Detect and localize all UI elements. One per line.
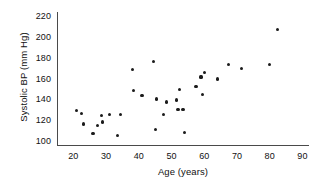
- x-tick-label: 50: [160, 152, 184, 161]
- data-point: [152, 60, 155, 63]
- data-point: [131, 68, 134, 71]
- data-point: [155, 97, 158, 100]
- data-point: [227, 63, 230, 66]
- data-point: [175, 98, 178, 101]
- y-tick-label: 180: [27, 54, 51, 63]
- data-point: [108, 113, 111, 116]
- x-tick-label: 90: [290, 152, 314, 161]
- data-point: [82, 122, 85, 125]
- y-tick-label: 140: [27, 95, 51, 104]
- x-tick-label: 70: [225, 152, 249, 161]
- data-point: [154, 128, 157, 131]
- x-tick-label: 40: [127, 152, 151, 161]
- data-point: [116, 134, 119, 137]
- data-point: [203, 71, 206, 74]
- data-point: [75, 109, 78, 112]
- data-point: [276, 28, 279, 31]
- data-point: [100, 114, 103, 117]
- x-axis-title: Age (years): [57, 166, 309, 177]
- data-point: [183, 131, 186, 134]
- data-point: [240, 67, 243, 70]
- y-tick-label: 160: [27, 75, 51, 84]
- x-tick-label: 20: [61, 152, 85, 161]
- y-tick-label: 200: [27, 33, 51, 42]
- data-point: [165, 100, 168, 103]
- y-tick-label: 220: [27, 12, 51, 21]
- data-point: [101, 120, 104, 123]
- y-tick-label: 100: [27, 137, 51, 146]
- scatter-chart: Systolic BP (mm Hg) 10012014016018020022…: [0, 0, 330, 189]
- data-point: [201, 93, 204, 96]
- data-point: [178, 88, 181, 91]
- data-point: [132, 89, 135, 92]
- x-tick-label: 30: [94, 152, 118, 161]
- data-point: [162, 113, 165, 116]
- data-point: [176, 108, 179, 111]
- data-point: [268, 63, 271, 66]
- x-tick-label: 80: [258, 152, 282, 161]
- data-point: [119, 113, 122, 116]
- data-point: [140, 94, 143, 97]
- x-axis-line: [57, 145, 309, 146]
- data-point: [194, 85, 197, 88]
- plot-area: [57, 12, 309, 145]
- data-point: [181, 108, 184, 111]
- y-tick-label: 120: [27, 116, 51, 125]
- data-point: [199, 75, 202, 78]
- x-tick-label: 60: [192, 152, 216, 161]
- data-point: [80, 112, 83, 115]
- data-point: [91, 132, 94, 135]
- data-point: [96, 124, 99, 127]
- data-point: [216, 77, 219, 80]
